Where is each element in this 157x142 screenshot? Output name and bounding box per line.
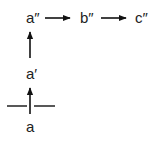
diagram: a″ b″ c″ a′ a <box>0 0 157 142</box>
diagram-edges <box>0 0 157 142</box>
node-a-double-prime: a″ <box>26 10 40 25</box>
node-a: a <box>26 119 34 134</box>
node-c-double-prime: c″ <box>135 10 148 25</box>
node-b-double-prime: b″ <box>80 10 94 25</box>
node-a-prime: a′ <box>26 66 37 81</box>
